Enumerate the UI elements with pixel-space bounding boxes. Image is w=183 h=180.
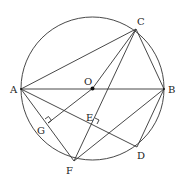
right-angle-mark-e (95, 118, 99, 124)
label-a: A (9, 84, 18, 95)
right-angle-mark-g (45, 117, 52, 124)
segment-af (21, 89, 74, 161)
segment-bd (137, 89, 164, 147)
label-c: C (137, 16, 145, 27)
label-e: E (86, 112, 93, 123)
label-f: F (66, 165, 73, 176)
label-d: D (137, 150, 145, 161)
point-a (20, 88, 22, 90)
segment-ac (21, 29, 136, 89)
label-b: B (168, 84, 175, 95)
segment-cf (74, 29, 136, 161)
geometry-diagram: A B C O E G F D (0, 0, 183, 180)
center-point-o (91, 87, 95, 91)
segment-oc (93, 29, 137, 89)
segment-ad (21, 89, 137, 147)
segment-bf (74, 89, 164, 161)
label-o: O (84, 76, 92, 87)
label-g: G (37, 125, 45, 136)
point-b (163, 88, 165, 90)
segment-bc (136, 29, 164, 89)
